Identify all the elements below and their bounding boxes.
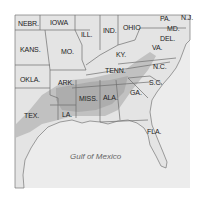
state-label-ill: ILL. <box>81 31 92 38</box>
gulf-of-mexico-label: Gulf of Mexico <box>70 152 121 161</box>
state-label-okla: OKLA. <box>20 76 40 83</box>
state-label-nj: N.J. <box>181 14 193 21</box>
state-label-la: LA. <box>62 111 72 118</box>
state-label-sc: S.C. <box>149 79 162 86</box>
state-label-ind: IND. <box>103 27 117 34</box>
state-label-md: MD. <box>167 25 180 32</box>
state-label-ark: ARK. <box>58 79 74 86</box>
state-label-ala: ALA. <box>103 94 118 101</box>
map-container: NEBR. IOWA ILL. IND. OHIO PA. N.J. MD. D… <box>0 0 199 205</box>
state-label-ohio: OHIO <box>123 24 141 31</box>
state-label-del: DEL. <box>160 35 175 42</box>
state-label-fla: FLA. <box>147 128 161 135</box>
state-label-miss: MISS. <box>79 95 98 102</box>
state-label-nebr: NEBR. <box>18 20 39 27</box>
state-label-nc: N.C. <box>153 63 167 70</box>
state-label-mo: MO. <box>61 48 74 55</box>
state-label-ky: KY. <box>116 51 126 58</box>
state-label-pa: PA. <box>160 15 170 22</box>
state-label-kans: KANS. <box>20 46 41 53</box>
state-label-va: VA. <box>152 44 162 51</box>
state-label-tex: TEX. <box>24 112 39 119</box>
state-label-tenn: TENN. <box>105 67 126 74</box>
state-label-iowa: IOWA <box>50 19 68 26</box>
state-label-ga: GA. <box>130 89 142 96</box>
